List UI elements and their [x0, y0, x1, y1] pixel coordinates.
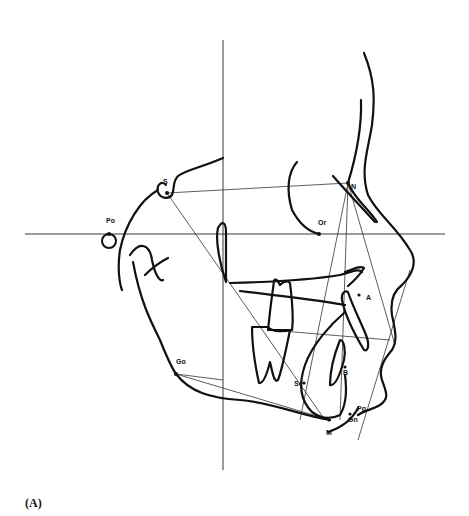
landmark-label-go: Go	[176, 358, 186, 365]
landmark-label-m: M	[326, 429, 332, 436]
figure-caption: (A)	[25, 496, 42, 511]
landmark-label-n: N	[351, 183, 356, 190]
cephalometric-tracing: S Po N Or A B Go Se Pg Gn M	[0, 0, 469, 516]
upper-molar	[268, 280, 293, 330]
landmark-label-s: S	[163, 178, 168, 185]
landmark-label-pg: Pg	[357, 405, 366, 413]
porion-ring	[102, 234, 116, 248]
landmark-label-or: Or	[318, 219, 326, 226]
landmark-label-b: B	[343, 369, 348, 376]
landmark-label-po: Po	[106, 217, 115, 224]
symphysis-outline	[301, 312, 346, 418]
upper-incisor	[342, 291, 368, 350]
orbit-contour	[289, 162, 319, 234]
landmark-label-gn: Gn	[348, 416, 358, 423]
lower-molar	[252, 327, 290, 383]
occipital-contour	[119, 190, 158, 290]
landmark-label-se: Se	[294, 380, 303, 387]
landmark-label-a: A	[366, 294, 371, 301]
pterygomaxillary-fissure	[217, 223, 226, 282]
ramus-outline	[130, 246, 176, 374]
